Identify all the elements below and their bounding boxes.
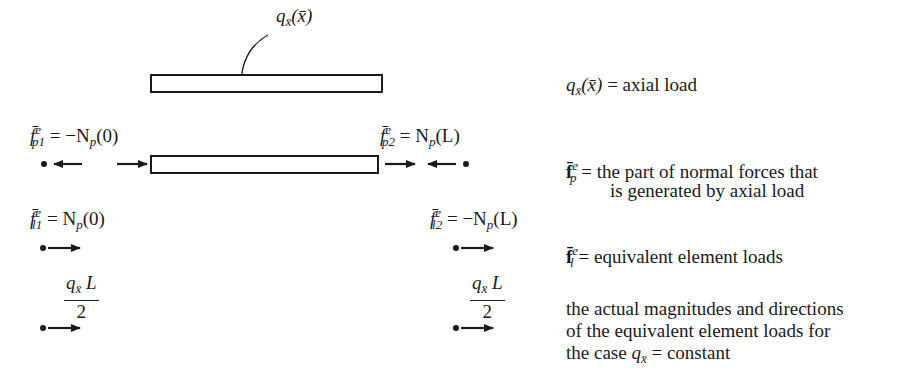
legend-axial: qx̄(x̄) = axial load [566, 74, 697, 99]
legend-fp-line2: is generated by axial load [610, 180, 804, 202]
fp1-label: f̄ep1 = −Np(0) [30, 122, 118, 150]
legend-note-line3: the case qx̄ = constant [566, 342, 730, 367]
loaded-bar [150, 74, 383, 93]
fl2-label: f̄el2 = −Np(L) [430, 205, 518, 233]
load-label: qx̄(x̄) [276, 5, 312, 30]
qL2-right: qx̄ L 2 [470, 272, 505, 323]
legend-note-line1: the actual magnitudes and directions [566, 298, 844, 320]
fl1-label: f̄el1 = Np(0) [30, 205, 105, 233]
fp2-label: f̄ep2 = Np(L) [380, 122, 460, 150]
qL2-left: qx̄ L 2 [64, 272, 99, 323]
legend-fl: f̄el = equivalent element loads [566, 243, 783, 271]
element-bar [150, 155, 379, 174]
legend-note-line2: of the equivalent element loads for [566, 320, 830, 342]
